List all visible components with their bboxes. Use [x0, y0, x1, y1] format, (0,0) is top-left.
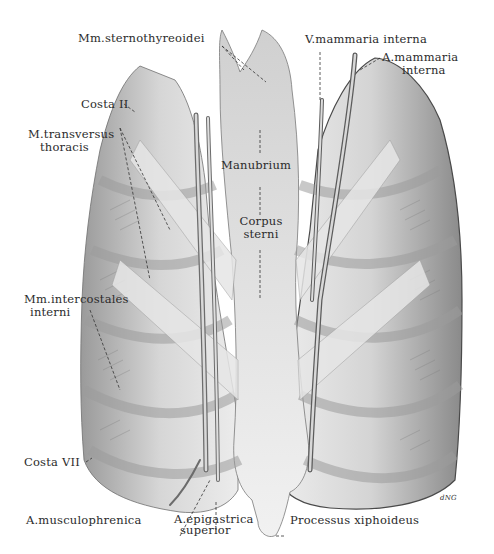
artist-signature: dNG [440, 492, 457, 504]
label-a-epigastrica-line2: superior [180, 524, 231, 536]
label-manubrium: Manubrium [221, 159, 291, 171]
anatomy-figure: Mm.sternothyreoidei V.mammaria interna A… [0, 0, 494, 554]
label-corpus-line1: Corpus [236, 215, 286, 227]
label-processus-xiphoideus: Processus xiphoideus [290, 514, 419, 526]
label-a-mammaria-interna-line2: interna [402, 64, 446, 76]
label-corpus-line2: sterni [236, 228, 286, 240]
label-v-mammaria-interna: V.mammaria interna [305, 33, 427, 45]
label-m-transversus-line1: M.transversus [28, 128, 114, 140]
label-mm-sternothyreoidei: Mm.sternothyreoidei [78, 32, 205, 44]
label-a-mammaria-interna-line1: A.mammaria [382, 51, 458, 63]
label-a-musculophrenica: A.musculophrenica [26, 514, 141, 526]
label-m-transversus-line2: thoracis [40, 141, 89, 153]
label-costa-ii: Costa II [81, 98, 128, 110]
thoracic-wall-illustration [0, 0, 494, 554]
label-mm-intercostales-line1: Mm.intercostales [24, 293, 129, 305]
label-costa-vii: Costa VII [24, 456, 80, 468]
label-mm-intercostales-line2: interni [30, 306, 71, 318]
